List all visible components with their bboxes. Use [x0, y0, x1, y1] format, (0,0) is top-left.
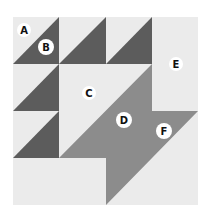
label-b: B [38, 39, 54, 55]
label-a: A [17, 23, 31, 37]
label-a-text: A [20, 25, 28, 36]
label-e-text: E [173, 59, 180, 70]
label-f-text: F [161, 126, 168, 137]
label-c: C [82, 86, 96, 100]
label-b-text: B [42, 42, 50, 53]
label-f: F [156, 123, 172, 139]
label-c-text: C [85, 88, 92, 99]
label-d-text: D [120, 115, 128, 126]
quilt-block-diagram: A B C D E F [0, 0, 210, 219]
label-e: E [169, 57, 183, 71]
label-d: D [116, 112, 132, 128]
